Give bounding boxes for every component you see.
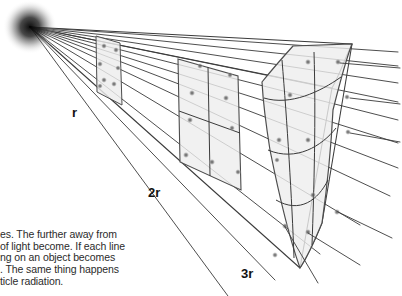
dimension-label-2r: 2r xyxy=(148,185,160,200)
panel-2r xyxy=(178,59,241,190)
figure-caption: es. The further away from of light becom… xyxy=(0,229,135,288)
caption-line: ng on an object becomes xyxy=(0,252,135,264)
point-light-source xyxy=(3,0,57,54)
dimension-label-r: r xyxy=(72,105,77,120)
caption-line: . The same thing happens xyxy=(0,264,135,276)
panel-r xyxy=(96,36,122,105)
caption-line: es. The further away from xyxy=(0,229,135,241)
caption-line: ticle radiation. xyxy=(0,276,135,288)
panel-3r xyxy=(262,44,352,268)
caption-line: of light become. If each line xyxy=(0,241,135,253)
dimension-label-3r: 3r xyxy=(241,266,253,281)
